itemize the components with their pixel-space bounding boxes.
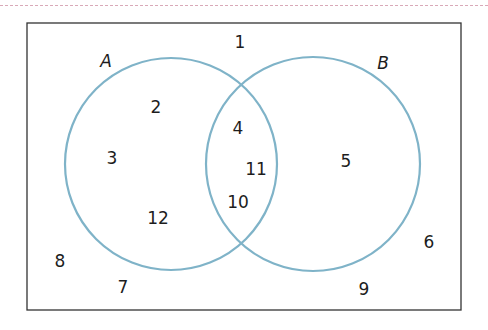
universal-set-frame	[27, 23, 461, 310]
element-5: 5	[341, 151, 352, 171]
venn-diagram: A B 1 2 3 4 11 5 10 12 8 6 7 9	[0, 0, 488, 330]
element-12: 12	[147, 208, 169, 228]
element-3: 3	[107, 148, 118, 168]
element-4: 4	[233, 118, 244, 138]
set-a-label: A	[99, 51, 112, 71]
element-8: 8	[55, 251, 66, 271]
set-b-circle	[206, 57, 420, 271]
element-6: 6	[424, 232, 435, 252]
element-1: 1	[235, 32, 246, 52]
element-2: 2	[151, 97, 162, 117]
element-10: 10	[227, 192, 249, 212]
element-9: 9	[359, 279, 370, 299]
set-b-label: B	[377, 53, 389, 73]
element-7: 7	[118, 277, 129, 297]
element-11: 11	[245, 159, 267, 179]
